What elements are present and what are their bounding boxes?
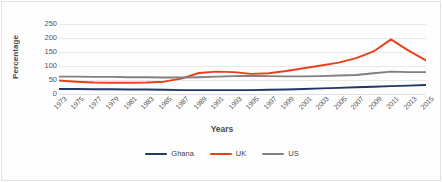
x-axis-tick-label: 2009: [367, 95, 383, 111]
y-axis-title: Percentage: [8, 20, 22, 94]
x-axis-tick-label: 1995: [244, 95, 260, 111]
plot-area: [59, 24, 426, 94]
legend-swatch-icon: [145, 153, 167, 155]
legend-item-ghana[interactable]: Ghana: [145, 150, 194, 158]
x-axis-tick-label: 2011: [385, 95, 400, 110]
x-axis-tick-label: 1997: [262, 95, 278, 111]
chart-container: Percentage 050100150200250 1973197519771…: [1, 1, 441, 181]
legend-label: Ghana: [171, 150, 194, 158]
x-axis-tick-label: 1985: [157, 95, 173, 111]
x-axis-tick-label: 1989: [192, 95, 208, 111]
series-line-ghana: [59, 85, 426, 90]
legend-label: UK: [236, 150, 246, 158]
x-axis-tick-label: 2003: [314, 95, 330, 111]
legend-item-uk[interactable]: UK: [210, 150, 246, 158]
legend-swatch-icon: [210, 153, 232, 155]
x-axis-title: Years: [2, 124, 442, 134]
y-axis-tick-label: 250: [44, 20, 57, 28]
legend-swatch-icon: [262, 153, 284, 155]
x-axis-tick-label: 1981: [122, 95, 138, 111]
x-axis-tick-label: 2013: [402, 95, 418, 111]
x-axis-tick-label: 2007: [349, 95, 365, 111]
x-axis-tick-label: 1999: [279, 95, 295, 111]
legend-label: US: [288, 150, 298, 158]
legend-item-us[interactable]: US: [262, 150, 298, 158]
y-axis-tick-label: 200: [44, 34, 57, 42]
y-axis-tick-label: 100: [44, 62, 57, 70]
x-axis-tick-label: 2005: [332, 95, 348, 111]
x-axis-tick-label: 1983: [140, 95, 156, 111]
x-axis-tick-label: 1975: [70, 95, 86, 111]
x-axis-tick-label: 1977: [87, 95, 103, 111]
x-axis-tick-label: 1987: [175, 95, 191, 111]
x-axis-tick-label: 2015: [419, 95, 435, 111]
x-axis-tick-label: 1991: [210, 95, 226, 111]
y-axis-tick-label: 50: [49, 76, 57, 84]
chart-legend: GhanaUKUS: [2, 150, 442, 158]
y-axis-tick-label: 150: [44, 48, 57, 56]
x-axis-tick-labels: 1973197519771979198119831985198719891991…: [59, 95, 426, 125]
series-lines: [59, 24, 426, 94]
x-axis-tick-label: 2001: [297, 95, 313, 111]
y-axis-tick-labels: 050100150200250: [24, 24, 57, 94]
x-axis-tick-label: 1993: [227, 95, 243, 111]
x-axis-tick-label: 1979: [105, 95, 121, 111]
y-axis-tick-label: 0: [53, 90, 57, 98]
